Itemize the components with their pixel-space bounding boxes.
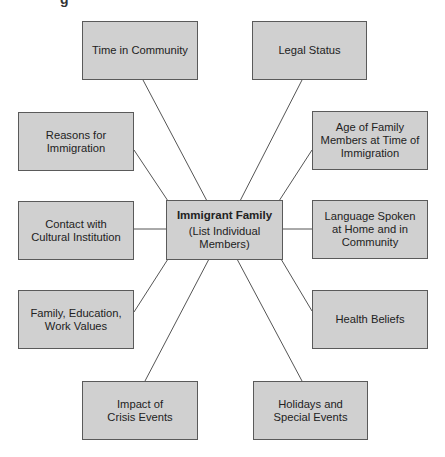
node-contact-with-cultural-institution: Contact with Cultural Institution — [18, 201, 134, 260]
connector-health-beliefs — [281, 259, 312, 311]
node-label: Work Values — [45, 320, 107, 333]
node-impact-of-crisis-events: Impact of Crisis Events — [82, 381, 198, 440]
node-label: Crisis Events — [107, 411, 172, 424]
node-label: Time in Community — [92, 44, 188, 57]
node-label: Impact of — [117, 398, 163, 411]
node-label: Legal Status — [278, 44, 340, 57]
node-label: Immigration — [47, 142, 105, 155]
connector-time-in-community — [143, 80, 207, 201]
node-family-education-work-values: Family, Education, Work Values — [18, 290, 134, 349]
node-label: Community — [342, 236, 399, 249]
connector-age-of-family-members — [279, 150, 312, 201]
node-label: Contact with — [45, 218, 107, 231]
node-label: at Home and in — [332, 223, 408, 236]
node-label: Family, Education, — [30, 307, 121, 320]
node-label: Cultural Institution — [31, 231, 121, 244]
node-reasons-for-immigration: Reasons for Immigration — [18, 112, 134, 171]
node-label: Language Spoken — [325, 210, 416, 223]
center-node-title: Immigrant Family — [177, 209, 272, 222]
connector-reasons-for-immigration — [134, 150, 168, 201]
node-health-beliefs: Health Beliefs — [312, 290, 428, 349]
node-label: Reasons for — [46, 129, 106, 142]
node-label: Special Events — [273, 411, 347, 424]
node-label: Members at Time of — [321, 134, 420, 147]
connector-legal-status — [240, 80, 302, 201]
node-holidays-and-special-events: Holidays and Special Events — [253, 381, 368, 440]
node-time-in-community: Time in Community — [82, 21, 198, 80]
node-label: Health Beliefs — [335, 313, 404, 326]
center-node-subtitle-line: Members) — [199, 238, 249, 251]
node-label: Immigration — [341, 147, 399, 160]
node-legal-status: Legal Status — [252, 21, 367, 80]
node-label: Age of Family — [336, 121, 404, 134]
center-node-immigrant-family: Immigrant Family (List Individual Member… — [166, 200, 283, 260]
center-node-subtitle-line: (List Individual — [189, 225, 261, 238]
connector-impact-of-crisis-events — [145, 259, 209, 381]
node-language-spoken: Language Spoken at Home and in Community — [312, 200, 428, 259]
node-label: Holidays and — [278, 398, 343, 411]
node-age-of-family-members: Age of Family Members at Time of Immigra… — [312, 111, 428, 170]
connector-family-education-work-values — [134, 259, 168, 312]
